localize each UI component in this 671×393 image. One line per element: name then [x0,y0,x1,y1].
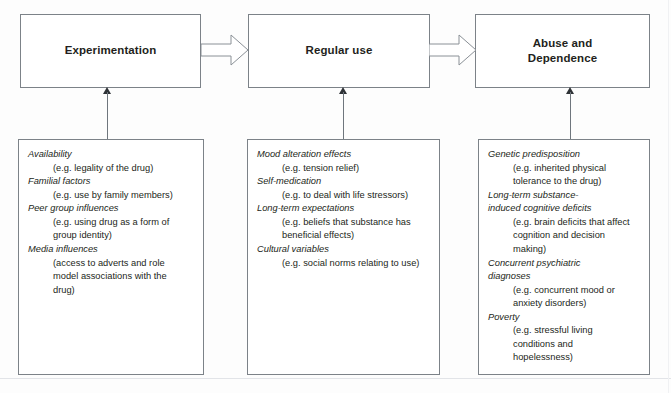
factor-heading: Availability [28,148,195,162]
factor-heading: Peer group influences [28,202,195,216]
stage-label-abuse-and-dependence: Abuse and Dependence [528,36,597,66]
list-item: Peer group influences (e.g. using drug a… [28,202,195,243]
factor-box-regular-use-factors[interactable]: Mood alteration effects (e.g. tension re… [247,139,440,375]
list-item: Poverty (e.g. stressful living condition… [488,311,641,365]
stage-box-regular-use[interactable]: Regular use [248,14,430,88]
factor-example: (e.g. beliefs that substance has benefic… [257,216,431,243]
list-item: Availability (e.g. legality of the drug) [28,148,195,175]
factor-list: Availability (e.g. legality of the drug)… [28,148,195,297]
list-item: Long-term substance- induced cognitive d… [488,189,641,257]
stage-label-experimentation: Experimentation [65,43,157,58]
arrow-experimentation-to-regular-use [201,33,249,67]
diagram-canvas: Experimentation Regular use Abuse and De… [0,0,671,393]
factor-example: (e.g. use by family members) [28,189,195,203]
arrow-shaft [570,92,571,140]
factor-heading: Cultural variables [257,243,431,257]
factor-example: (e.g. inherited physical tolerance to th… [488,162,641,189]
factor-box-experimentation-factors[interactable]: Availability (e.g. legality of the drug)… [18,139,204,375]
factor-heading: Familial factors [28,175,195,189]
factor-heading: Long-term substance- induced cognitive d… [488,189,641,216]
factor-example: (access to adverts and role model associ… [28,257,195,298]
list-item: Media influences (access to adverts and … [28,243,195,297]
list-item: Familial factors (e.g. use by family mem… [28,175,195,202]
page-scan-line [0,378,671,379]
page-scan-edge [668,0,669,393]
arrow-shaft [343,92,344,140]
factor-list: Mood alteration effects (e.g. tension re… [257,148,431,270]
factor-list: Genetic predisposition (e.g. inherited p… [488,148,641,365]
arrow-up-to-abuse-and-dependence [565,87,576,140]
list-item: Cultural variables (e.g. social norms re… [257,243,431,270]
factor-example: (e.g. stressful living conditions and ho… [488,324,641,365]
list-item: Genetic predisposition (e.g. inherited p… [488,148,641,189]
factor-heading: Concurrent psychiatric diagnoses [488,257,641,284]
factor-heading: Genetic predisposition [488,148,641,162]
list-item: Concurrent psychiatric diagnoses (e.g. c… [488,257,641,311]
factor-example: (e.g. brain deficits that affect cogniti… [488,216,641,257]
factor-example: (e.g. using drug as a form of group iden… [28,216,195,243]
factor-example: (e.g. tension relief) [257,162,431,176]
arrow-regular-use-to-abuse-and-dependence [429,33,477,67]
arrow-up-to-experimentation [102,87,113,140]
factor-example: (e.g. to deal with life stressors) [257,189,431,203]
arrow-up-to-regular-use [338,87,349,140]
arrow-shaft [107,92,108,140]
stage-label-regular-use: Regular use [306,43,373,58]
factor-heading: Long-term expectations [257,202,431,216]
list-item: Mood alteration effects (e.g. tension re… [257,148,431,175]
factor-box-abuse-factors[interactable]: Genetic predisposition (e.g. inherited p… [478,139,650,375]
stage-box-abuse-and-dependence[interactable]: Abuse and Dependence [475,14,650,88]
factor-example: (e.g. concurrent mood or anxiety disorde… [488,284,641,311]
factor-heading: Self-medication [257,175,431,189]
factor-example: (e.g. legality of the drug) [28,162,195,176]
stage-box-experimentation[interactable]: Experimentation [20,14,201,88]
factor-heading: Poverty [488,311,641,325]
factor-example: (e.g. social norms relating to use) [257,257,431,271]
factor-heading: Media influences [28,243,195,257]
list-item: Self-medication (e.g. to deal with life … [257,175,431,202]
factor-heading: Mood alteration effects [257,148,431,162]
list-item: Long-term expectations (e.g. beliefs tha… [257,202,431,243]
